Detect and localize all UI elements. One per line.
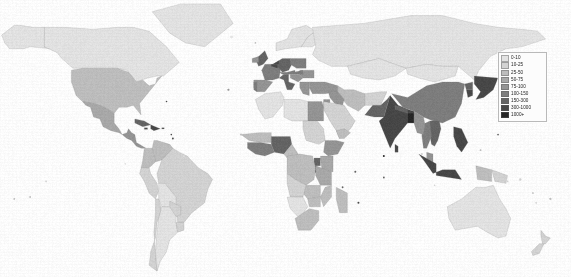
legend-item: 150-300 (501, 98, 544, 105)
legend-item: 25-50 (501, 69, 544, 76)
legend-item: 300-1000 (501, 105, 544, 112)
legend-item: 10-25 (501, 62, 544, 69)
legend-label-25-50: 25-50 (511, 70, 523, 76)
legend-item: 50-75 (501, 76, 544, 83)
legend-item: 100-150 (501, 90, 544, 97)
legend-label-100-150: 100-150 (511, 91, 529, 97)
legend-swatch-75-100 (501, 84, 509, 90)
legend-label-50-75: 50-75 (511, 77, 523, 83)
map-legend: Population density 0-10 10-25 25-50 50-7… (498, 52, 547, 122)
legend-item: 75-100 (501, 83, 544, 90)
legend-swatch-50-75 (501, 77, 509, 83)
choropleth-map-canvas (0, 0, 571, 277)
legend-label-10-25: 10-25 (511, 62, 523, 68)
legend-label-75-100: 75-100 (511, 84, 526, 90)
legend-swatch-150-300 (501, 98, 509, 104)
legend-swatch-300-1000 (501, 105, 509, 111)
legend-label-0-10: 0-10 (511, 55, 521, 61)
legend-swatch-10-25 (501, 62, 509, 68)
legend-swatch-100-150 (501, 91, 509, 97)
legend-swatch-25-50 (501, 70, 509, 76)
legend-item: 1000+ (501, 112, 544, 119)
legend-swatch-0-10 (501, 55, 509, 61)
legend-swatch-1000-plus (501, 112, 509, 118)
world-map-figure: Population density 0-10 10-25 25-50 50-7… (0, 0, 571, 277)
legend-label-150-300: 150-300 (511, 98, 529, 104)
legend-item: 0-10 (501, 55, 544, 62)
legend-label-1000-plus: 1000+ (511, 112, 524, 118)
legend-label-300-1000: 300-1000 (511, 105, 531, 111)
